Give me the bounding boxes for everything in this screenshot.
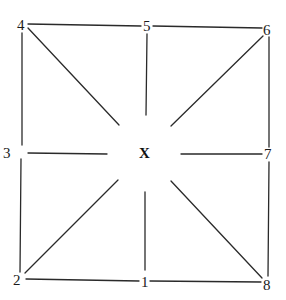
edge-5-6	[153, 26, 262, 28]
node-label-1: 1	[141, 274, 149, 290]
node-label-6: 6	[263, 22, 271, 38]
spoke-6	[171, 36, 263, 126]
center-label-x: X	[139, 145, 150, 161]
square-spoke-diagram: 4 5 6 3 X 7 2 1 8	[0, 0, 286, 300]
edge-2-1	[26, 279, 139, 281]
edge-1-8	[150, 281, 261, 282]
node-label-2: 2	[13, 272, 21, 288]
spoke-4	[28, 28, 119, 125]
spoke-5	[146, 34, 147, 115]
spoke-8	[171, 181, 262, 278]
spoke-2	[25, 180, 118, 273]
edge-7-8	[268, 162, 269, 276]
edge-3-2	[20, 159, 21, 272]
spoke-3	[28, 153, 107, 154]
node-label-8: 8	[263, 277, 271, 293]
node-label-7: 7	[264, 146, 272, 162]
node-label-3: 3	[3, 145, 11, 161]
node-label-4: 4	[17, 17, 25, 33]
node-label-5: 5	[143, 18, 151, 34]
edge-4-5	[28, 24, 141, 26]
